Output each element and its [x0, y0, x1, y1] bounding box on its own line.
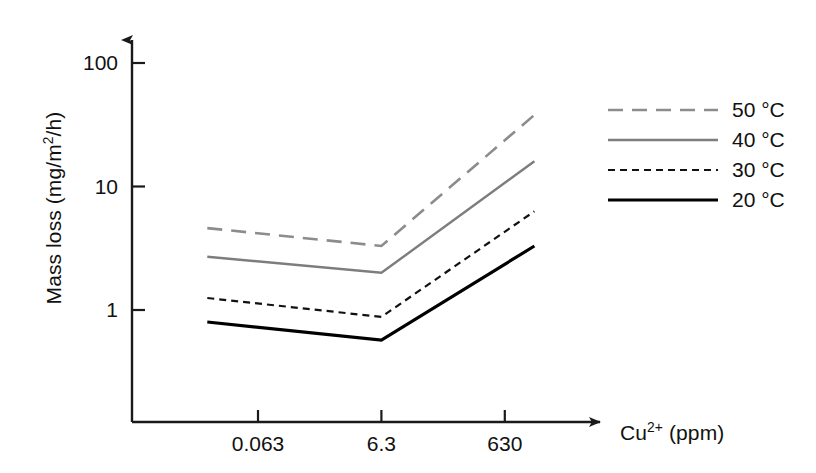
y-axis-tick-label: 10 — [40, 175, 118, 199]
series-line-1 — [207, 161, 534, 272]
x-axis-title-superscript: 2+ — [647, 419, 663, 435]
y-axis-title-post: /h) — [42, 112, 65, 137]
y-axis-title-superscript: 2 — [40, 136, 56, 144]
x-axis-ticks — [258, 410, 505, 422]
y-axis-tick-label: 1 — [40, 298, 118, 322]
legend-swatch-group — [608, 110, 718, 200]
chart-plot-area — [0, 0, 816, 473]
x-axis-tick-label: 6.3 — [367, 432, 396, 456]
x-axis-tick-label: 0.063 — [232, 432, 285, 456]
x-axis-title-base: Cu — [620, 421, 647, 444]
y-axis-title-pre: Mass loss (mg/m — [42, 144, 65, 304]
x-axis-title-unit: (ppm) — [663, 421, 724, 444]
series-line-0 — [207, 115, 534, 246]
y-axis-tick-label: 100 — [40, 51, 118, 75]
legend-label-1: 40 °C — [732, 128, 785, 152]
y-axis-ticks — [132, 63, 145, 310]
x-axis-tick-label: 630 — [487, 432, 522, 456]
chart-series-group — [207, 115, 534, 340]
figure-container: Mass loss (mg/m2/h) Cu2+ (ppm) 100101 0.… — [0, 0, 816, 473]
x-axis-title: Cu2+ (ppm) — [620, 421, 724, 445]
legend-label-3: 20 °C — [732, 188, 785, 212]
legend-label-0: 50 °C — [732, 98, 785, 122]
series-line-2 — [207, 211, 534, 317]
legend-label-2: 30 °C — [732, 158, 785, 182]
